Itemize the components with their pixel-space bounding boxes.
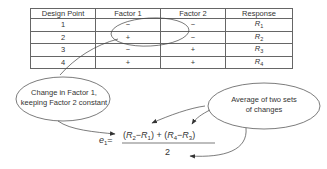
right-callout-line-1: Average of two sets [214,95,314,105]
equation-lhs: e1= [99,135,113,146]
left-callout-line-2: keeping Factor 2 constant [16,98,112,108]
arrow-to-denominator [190,128,246,156]
equation-denominator: 2 [165,147,170,157]
connector-line [60,39,118,75]
right-callout-line-2: of changes [214,105,314,115]
diagram-overlay [0,0,327,169]
equation-numerator: (R2−R1) + (R4−R3) [123,130,195,141]
left-callout-line-1: Change in Factor 1, [16,88,112,98]
plus-sign: + [154,130,164,140]
right-callout-text: Average of two sets of changes [214,95,314,115]
equals-sign: = [107,135,112,145]
arrow-to-second-difference [192,110,210,124]
arrow-to-first-difference [152,106,205,123]
left-callout-text: Change in Factor 1, keeping Factor 2 con… [16,88,112,108]
highlight-ellipse [110,16,189,48]
arrow-to-e1 [58,121,115,134]
paren: ) [192,130,195,140]
